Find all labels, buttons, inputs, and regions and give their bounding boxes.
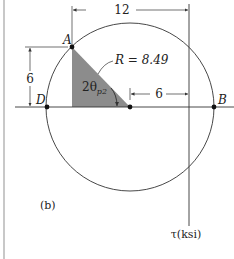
- label-a: A: [62, 33, 72, 47]
- point-b: [212, 105, 217, 110]
- radius-leader: [98, 61, 113, 74]
- radius-label: R = 8.49: [114, 53, 169, 67]
- label-d: D: [35, 93, 46, 107]
- dim-12-label: 12: [114, 3, 129, 17]
- mohr-circle-diagram: 12 6 6 A D B R = 8.49 2θp2 (b) τ(ksi): [0, 0, 234, 259]
- figure-label: (b): [40, 199, 56, 212]
- dim-6-vertical-label: 6: [26, 72, 34, 86]
- left-border: [3, 0, 5, 259]
- dim-6-horizontal-label: 6: [155, 87, 163, 101]
- label-b: B: [217, 93, 227, 107]
- tau-axis-label: τ(ksi): [171, 228, 202, 241]
- point-center: [128, 105, 133, 110]
